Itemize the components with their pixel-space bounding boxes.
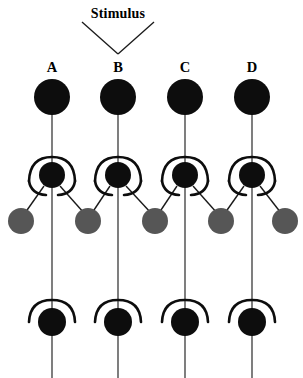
interneuron-soma — [272, 208, 298, 234]
stimulus-arrow-right-stroke — [118, 22, 154, 54]
interneuron-soma — [208, 208, 234, 234]
input-soma-a — [34, 79, 70, 115]
output-soma-d — [238, 308, 266, 336]
stimulus-arrow-left-stroke — [82, 22, 118, 54]
column-label-d: D — [247, 59, 257, 75]
input-soma-c — [167, 79, 203, 115]
relay-soma-a — [39, 162, 65, 188]
stimulus-group: Stimulus — [82, 6, 154, 54]
relay-to-output-axon-group — [52, 176, 252, 322]
relay-neuron-row — [29, 157, 275, 195]
stimulus-label: Stimulus — [91, 6, 146, 21]
column-label-c: C — [180, 59, 190, 75]
diagram-canvas: Stimulus A B C D — [0, 0, 303, 378]
column-label-a: A — [47, 59, 58, 75]
output-soma-b — [104, 308, 132, 336]
relay-soma-d — [239, 162, 265, 188]
input-neuron-row — [34, 79, 270, 115]
output-soma-a — [38, 308, 66, 336]
interneuron-soma — [75, 208, 101, 234]
interneuron-soma — [142, 208, 168, 234]
input-soma-d — [234, 79, 270, 115]
output-soma-c — [171, 308, 199, 336]
relay-soma-b — [105, 162, 131, 188]
output-tail-group — [52, 330, 252, 378]
input-soma-b — [100, 79, 136, 115]
input-to-relay-axon-group — [52, 112, 252, 176]
interneuron-soma — [8, 208, 34, 234]
relay-soma-c — [172, 162, 198, 188]
neural-circuit-diagram: Stimulus A B C D — [0, 0, 303, 378]
output-neuron-row — [29, 300, 275, 336]
column-label-group: A B C D — [47, 59, 257, 75]
column-label-b: B — [113, 59, 123, 75]
